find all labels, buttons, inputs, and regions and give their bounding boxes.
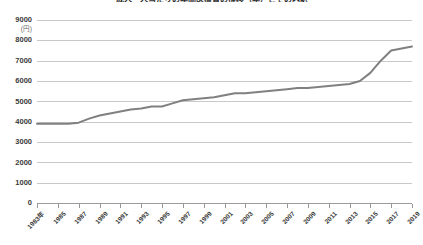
x-tick-1993: [141, 204, 142, 208]
x-tick-1995: [162, 204, 163, 208]
x-tick-2001: [225, 204, 226, 208]
x-tick-1999: [204, 204, 205, 208]
line-chart: 成人一人当たりの年間医療費の推移（年）とその内訳 9000 (円) 8000 7…: [0, 0, 423, 245]
x-tick-1983: [37, 204, 38, 208]
x-tick-2009: [308, 204, 309, 208]
x-tick-2019: [412, 204, 413, 208]
series-layer: [0, 0, 423, 245]
x-tick-2003: [245, 204, 246, 208]
x-tick-2017: [391, 204, 392, 208]
series-line-annual-amount: [37, 46, 412, 123]
x-tick-2015: [370, 204, 371, 208]
x-tick-2005: [266, 204, 267, 208]
x-tick-1985: [58, 204, 59, 208]
x-tick-2007: [287, 204, 288, 208]
x-tick-1997: [183, 204, 184, 208]
x-tick-1989: [100, 204, 101, 208]
x-tick-1987: [79, 204, 80, 208]
x-tick-2011: [329, 204, 330, 208]
x-tick-1991: [120, 204, 121, 208]
x-tick-2013: [350, 204, 351, 208]
